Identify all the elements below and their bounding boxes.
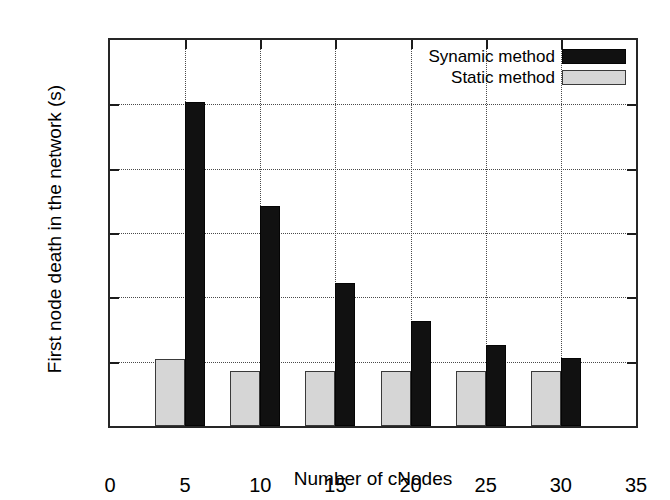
x-tick-mark-top — [185, 40, 187, 49]
x-tick-label: 15 — [324, 474, 346, 497]
y-tick-mark-right — [627, 233, 636, 235]
x-tick-label: 30 — [550, 474, 572, 497]
y-tick-mark — [110, 362, 119, 364]
y-tick-mark-right — [627, 104, 636, 106]
y-tick-mark — [110, 233, 119, 235]
bar-static — [531, 371, 561, 426]
legend-label-static: Static method — [451, 69, 555, 86]
y-tick-mark — [110, 169, 119, 171]
y-axis-title: First node death in the network (s) — [44, 19, 66, 439]
x-tick-label: 0 — [104, 474, 115, 497]
x-tick-label: 25 — [475, 474, 497, 497]
bar-static — [155, 359, 185, 426]
bar-static — [381, 371, 411, 426]
x-tick-label: 10 — [249, 474, 271, 497]
plot-area: 05010015020025030005101520253035 Synamic… — [108, 38, 638, 428]
chart-legend: Synamic method Static method — [426, 46, 628, 88]
y-tick-mark — [110, 297, 119, 299]
legend-swatch-static — [562, 70, 626, 85]
legend-swatch-dynamic — [562, 49, 626, 64]
y-tick-mark — [110, 104, 119, 106]
y-tick-mark-right — [627, 169, 636, 171]
legend-item-static: Static method — [451, 69, 626, 86]
x-tick-label: 20 — [399, 474, 421, 497]
bar-dynamic — [561, 358, 581, 426]
bar-dynamic — [260, 206, 280, 426]
legend-item-dynamic: Synamic method — [428, 48, 626, 65]
x-tick-label: 5 — [180, 474, 191, 497]
y-tick-mark-right — [627, 362, 636, 364]
bar-dynamic — [335, 283, 355, 426]
y-tick-mark-right — [627, 297, 636, 299]
bar-static — [305, 371, 335, 426]
bar-dynamic — [185, 102, 205, 426]
x-tick-label: 35 — [625, 474, 647, 497]
bar-static — [456, 371, 486, 426]
x-tick-mark-top — [260, 40, 262, 49]
bar-dynamic — [486, 345, 506, 426]
bar-dynamic — [411, 321, 431, 427]
bar-static — [230, 371, 260, 426]
x-tick-mark-top — [411, 40, 413, 49]
chart-figure: First node death in the network (s) Numb… — [0, 0, 670, 500]
legend-label-dynamic: Synamic method — [428, 48, 555, 65]
plot-inner: 05010015020025030005101520253035 — [110, 40, 636, 426]
x-tick-mark-top — [335, 40, 337, 49]
